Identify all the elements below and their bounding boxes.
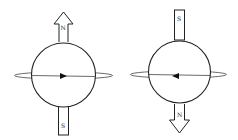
diagram-canvas: N S S N: [0, 0, 238, 140]
left-south-bar: [59, 104, 69, 135]
left-sphere-group: N S: [15, 12, 113, 135]
right-top-pole-label: S: [177, 15, 181, 22]
right-sphere-group: S N: [131, 10, 227, 133]
right-sphere: [149, 41, 211, 103]
left-top-pole-label: N: [61, 24, 66, 31]
right-north-arrow: [170, 104, 190, 133]
right-bottom-pole-label: N: [177, 111, 182, 118]
left-bottom-pole-label: S: [61, 122, 65, 129]
